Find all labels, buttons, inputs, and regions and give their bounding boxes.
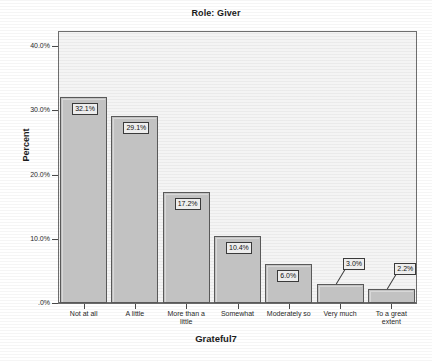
x-axis-tick [289,304,290,309]
bar-value-label: 32.1% [72,103,98,115]
y-axis-tick [52,175,58,176]
x-axis-title: Grateful7 [0,333,432,344]
bar-value-label: 17.2% [175,198,201,210]
y-axis-tick-label: 10.0% [22,235,50,242]
x-axis-tick-label: Not at all [58,310,109,318]
x-axis-tick [84,304,85,309]
x-axis-tick [391,304,392,309]
x-axis-tick [238,304,239,309]
bar-value-label: 3.0% [343,258,365,270]
x-axis-tick-label: Moderately so [263,310,314,318]
x-axis-tick-label: To a great extent [366,310,417,325]
x-axis-tick-label: More than a little [161,310,212,325]
bar-value-label: 6.0% [277,270,299,282]
y-axis-tick [52,303,58,304]
y-axis-tick [52,46,58,47]
chart-container: Role: Giver 40.0%30.0%20.0%10.0%.0% Not … [0,0,432,361]
bar-value-label: 2.2% [394,263,416,275]
y-axis-tick [52,239,58,240]
x-axis-tick-label: Very much [314,310,365,318]
bar[interactable] [368,289,415,303]
x-axis-tick [186,304,187,309]
bar-value-label: 29.1% [123,122,149,134]
y-axis-title: Percent [21,105,31,185]
bar[interactable] [60,97,107,303]
y-axis-tick-label: .0% [22,299,50,306]
chart-title: Role: Giver [0,8,432,18]
y-axis-line [58,31,59,304]
y-axis-tick [52,110,58,111]
bar[interactable] [111,116,158,303]
bar[interactable] [317,284,364,303]
x-axis-tick-label: Somewhat [212,310,263,318]
x-axis-tick [135,304,136,309]
y-axis-tick-label: 40.0% [22,42,50,49]
x-axis-tick-label: A little [109,310,160,318]
x-axis-tick [340,304,341,309]
bar-value-label: 10.4% [226,242,252,254]
